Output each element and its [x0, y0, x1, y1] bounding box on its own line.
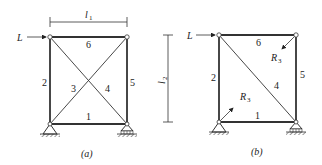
node-icon [217, 33, 221, 37]
dimension-label: l [85, 9, 88, 20]
member-label-6: 6 [86, 39, 91, 50]
member-label-1: 1 [255, 110, 260, 121]
dimension-subscript: 1 [89, 14, 93, 22]
member-label-4: 4 [274, 80, 279, 91]
dimension-l2: l 2 [156, 35, 173, 122]
dimension-label: l [156, 81, 167, 84]
dimension-subscript: 2 [161, 76, 169, 80]
member-label-6: 6 [256, 37, 261, 48]
member-label-4: 4 [105, 83, 110, 94]
redundant-label-bottom: R [239, 91, 246, 102]
redundant-arrow-top [282, 35, 296, 49]
load-label: L [16, 32, 23, 43]
member-label-2: 2 [42, 77, 47, 88]
panel-a: l 1 L 6 1 2 5 3 4 [16, 9, 137, 160]
panel-b: l 2 L R 3 R 3 6 1 2 5 4 [156, 30, 306, 158]
member-label-3: 3 [71, 83, 76, 94]
member-label-1: 1 [86, 111, 91, 122]
dimension-l1: l 1 [50, 9, 127, 27]
truss-members [219, 35, 296, 122]
load-label: L [186, 30, 193, 41]
redundant-label-top: R [270, 52, 277, 63]
member-label-5: 5 [300, 69, 305, 80]
load-arrow: L [16, 32, 46, 43]
node-icon [294, 33, 298, 37]
member-label-5: 5 [130, 77, 135, 88]
svg-text:3: 3 [278, 57, 282, 65]
truss-diagram: l 1 L 6 1 2 5 3 4 [0, 0, 322, 165]
caption-a: (a) [81, 148, 93, 160]
load-arrow: L [186, 30, 215, 41]
member-label-2: 2 [211, 72, 216, 83]
member-4 [219, 35, 296, 122]
caption-b: (b) [251, 146, 263, 158]
redundant-arrow-bottom [219, 108, 233, 122]
node-icon [48, 35, 52, 39]
svg-text:3: 3 [247, 96, 251, 104]
node-icon [125, 35, 129, 39]
